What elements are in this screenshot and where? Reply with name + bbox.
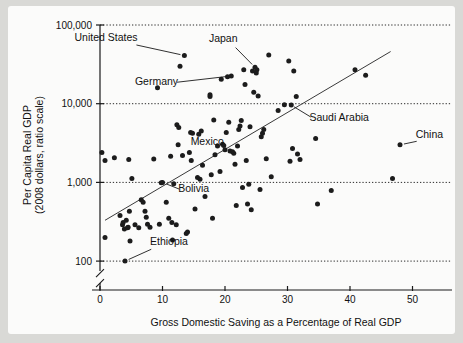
data-point — [168, 154, 173, 159]
data-point — [315, 202, 320, 207]
data-point — [295, 151, 300, 156]
data-point — [238, 124, 243, 129]
data-point — [128, 239, 133, 244]
data-point — [291, 69, 296, 74]
annotation-label: China — [416, 128, 444, 140]
data-point — [276, 108, 281, 113]
y-axis-title-line1: Per Capita Real GDP — [21, 105, 33, 205]
annotation-leader-line — [236, 48, 253, 65]
x-axis-title: Gross Domestic Saving as a Percentage of… — [151, 316, 402, 328]
annotation-leader-line — [404, 141, 417, 144]
data-point — [254, 67, 259, 72]
annotation-label: Ethiopia — [150, 235, 188, 247]
data-point — [103, 158, 108, 163]
annotation-label: Japan — [209, 32, 238, 44]
data-point — [208, 92, 213, 97]
data-point — [241, 67, 246, 72]
data-point — [243, 82, 248, 87]
data-point — [213, 152, 218, 157]
data-point — [180, 153, 185, 158]
data-point — [218, 169, 223, 174]
data-point — [266, 53, 271, 58]
data-point — [185, 229, 190, 234]
data-point — [118, 213, 123, 218]
annotation-leader-line — [136, 45, 180, 55]
data-point — [148, 225, 153, 230]
data-point — [157, 222, 162, 227]
data-point — [261, 127, 266, 132]
x-tick-label: 30 — [282, 294, 294, 305]
data-point — [176, 125, 181, 130]
y-tick-label: 100 — [75, 256, 92, 267]
data-point — [226, 120, 231, 125]
data-point — [141, 200, 146, 205]
annotation-label: United States — [74, 31, 137, 43]
data-point — [249, 207, 254, 212]
data-point — [193, 206, 198, 211]
data-point — [136, 225, 141, 230]
annotation-label: Mexico — [191, 135, 224, 147]
data-point — [224, 130, 229, 135]
data-point — [182, 53, 187, 58]
data-point — [264, 156, 269, 161]
x-tick-label: 10 — [157, 294, 169, 305]
data-point — [200, 163, 205, 168]
data-point — [251, 90, 256, 95]
annotation-leader-line — [294, 107, 311, 117]
data-point — [248, 124, 253, 129]
data-point — [103, 235, 108, 240]
data-point — [256, 94, 261, 99]
data-point — [124, 218, 129, 223]
annotation-label: Saudi Arabia — [309, 111, 369, 123]
data-point — [203, 194, 208, 199]
data-point — [245, 202, 250, 207]
data-point — [112, 155, 117, 160]
data-point — [99, 150, 104, 155]
x-tick-label: 20 — [219, 294, 231, 305]
data-point — [244, 158, 249, 163]
data-point — [298, 157, 303, 162]
data-point — [231, 151, 236, 156]
y-tick-label: 100,000 — [56, 20, 93, 31]
data-point — [290, 146, 295, 151]
data-point — [239, 118, 244, 123]
y-tick-label: 1,000 — [67, 177, 92, 188]
data-point — [126, 157, 131, 162]
data-point — [363, 73, 368, 78]
data-point — [129, 176, 134, 181]
data-point — [178, 64, 183, 69]
data-point — [329, 188, 334, 193]
data-point — [240, 185, 245, 190]
data-point — [187, 150, 192, 155]
data-point — [258, 187, 263, 192]
data-point — [160, 180, 165, 185]
scatter-plot: 1001,00010,000100,00001020304050United S… — [0, 0, 463, 343]
data-point — [171, 181, 176, 186]
data-point — [282, 102, 287, 107]
data-point — [126, 225, 131, 230]
data-point — [246, 182, 251, 187]
data-point — [233, 162, 238, 167]
data-point — [235, 144, 240, 149]
y-axis-title-line2: (2008 dollars, ratio scale) — [33, 96, 45, 214]
data-point — [199, 128, 204, 133]
x-tick-label: 0 — [97, 294, 103, 305]
data-point — [209, 172, 214, 177]
data-point — [210, 216, 215, 221]
data-point — [398, 142, 403, 147]
data-point — [313, 136, 318, 141]
data-point — [223, 147, 228, 152]
data-point — [166, 216, 171, 221]
data-point — [127, 209, 132, 214]
data-point — [289, 103, 294, 108]
data-point — [123, 259, 128, 264]
data-point — [294, 94, 299, 99]
annotation-label: Germany — [135, 75, 179, 87]
data-point — [169, 220, 174, 225]
data-point — [390, 176, 395, 181]
annotation-label: Bolivia — [178, 182, 209, 194]
annotation-leader-line — [129, 249, 152, 259]
data-point — [151, 157, 156, 162]
data-point — [288, 159, 293, 164]
x-tick-label: 40 — [344, 294, 356, 305]
